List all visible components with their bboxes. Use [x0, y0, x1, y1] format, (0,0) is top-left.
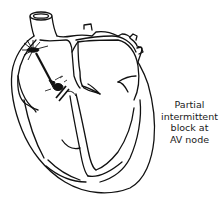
- vessel-top: [30, 12, 57, 36]
- annotation-label: Partial intermittent block at AV node: [160, 99, 219, 145]
- conduction-path: [36, 53, 55, 87]
- annotation-line-1: Partial: [160, 99, 219, 111]
- annotation-line-4: AV node: [160, 134, 219, 146]
- annotation-line-3: block at: [160, 122, 219, 134]
- annotation-line-2: intermittent: [160, 111, 219, 123]
